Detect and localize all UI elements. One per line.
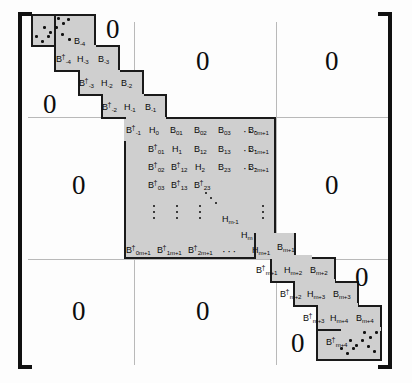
zero-top-left-upper: 0 [106,16,120,43]
label-dense-r0c3: B03 [218,126,230,135]
label-dense-r1-last: B1m+1 [248,145,269,154]
bottom-staircase-join-3 [318,303,358,307]
top-staircase-join-3 [80,70,120,74]
label-dense-r0c1: B01 [170,126,182,135]
zero-middle-left: 0 [72,172,86,199]
label-dense-r3c2: B†23 [194,181,210,190]
label-h-m-plus-2: Hm+2 [284,266,302,275]
label-bdag-m-plus-2: B†m+2 [280,290,301,299]
bottom-staircase-join-1 [272,255,312,259]
label-h-minus2: H-2 [101,79,113,88]
zero-bottom-left: 0 [72,298,86,325]
dense-vdots-col-last [262,205,265,222]
label-dense-r2c1: B†12 [171,163,187,172]
dense-vdots-col1 [176,205,179,222]
label-dense-last-c0: B†0m+1 [126,246,151,255]
label-dense-r0c2: B02 [194,126,206,135]
zero-bottom-right-lower: 0 [291,330,305,357]
label-dense-r1c0: B†01 [148,145,164,154]
label-dense-r3c0: B†03 [148,181,164,190]
label-b-m-plus-3: Bm+3 [333,290,351,299]
dense-vdots-col0 [153,205,156,222]
label-h-minus3: H-3 [77,55,89,64]
label-b-m-plus-2: Bm+2 [310,266,328,275]
dense-last-row-hdots: ··· [222,246,238,257]
bottom-staircase-join-2 [295,279,335,283]
label-dense-r1c3: B13 [218,145,230,154]
label-bdag-m-plus-4: B†m+4 [326,338,347,347]
label-bdag-minus2: B†-2 [102,103,117,112]
zero-bottom-middle: 0 [196,298,210,325]
dense-block-seam-top [126,117,166,121]
label-bdag-m-plus-1: B†m+1 [256,266,277,275]
label-h-minus1: H-1 [124,103,136,112]
matrix-figure: B-4 B†-4 H-3 B-3 B†-3 H-2 B-2 B†-2 H-1 B… [0,0,412,383]
label-b-m-plus-1: Bm+1 [277,243,295,252]
label-dense-last-c2: B†2m+1 [188,246,213,255]
label-b-minus1: B-1 [145,103,156,112]
label-b-minus2: B-2 [121,79,132,88]
label-h-m-plus-4: Hm+4 [330,314,348,323]
top-staircase-join-4 [103,94,144,98]
label-bdag-m-plus-3: B†m+3 [303,314,324,323]
label-b-minus4: B-4 [74,37,85,46]
label-dense-last-c1: B†1m+1 [157,246,182,255]
zero-top-middle: 0 [196,48,210,75]
label-dense-r1c1: H1 [172,145,182,154]
partition-rule-vertical-right [276,22,277,365]
label-bdag-minus3: B†-3 [79,79,94,88]
label-dense-r2c0: B†02 [148,163,164,172]
label-bdag-minus4: B†-4 [56,55,71,64]
label-dense-r2-last: B2m+1 [248,163,269,172]
label-dense-r2c2: H2 [195,163,205,172]
zero-top-right: 0 [325,48,339,75]
label-dense-r3c1: B†13 [171,181,187,190]
label-bdag-minus1: B†-1 [126,126,141,135]
label-h-m-plus-3: Hm+3 [307,290,325,299]
label-dense-r0c0: H0 [149,126,159,135]
label-dense-r2c3: B23 [218,163,230,172]
zero-middle-right: 0 [325,172,339,199]
label-b-minus3: B-3 [98,55,109,64]
dense-diagonal-dots [205,192,221,208]
dense-vdots-col2 [199,205,202,222]
label-h-m: Hm [241,231,252,240]
zero-bottom-right-upper: 0 [355,264,369,291]
label-b-m-plus-4: Bm+4 [356,314,374,323]
zero-middle-left-upper: 0 [43,91,57,118]
label-h-m-minus-1: Hm-1 [222,215,238,224]
label-dense-r1c2: B12 [194,145,206,154]
label-dense-last-h: Hm+1 [252,246,270,255]
top-left-dot-cloud [33,16,75,46]
label-dense-r0-last: B0m+1 [248,126,269,135]
